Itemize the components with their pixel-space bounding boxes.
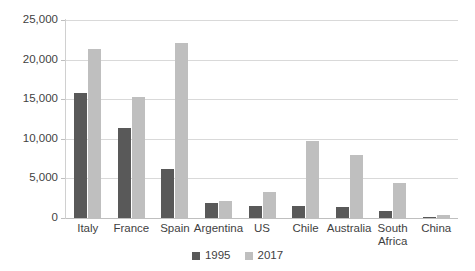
bar-argentina-1995: [205, 203, 218, 218]
y-axis-tick-mark: [61, 178, 65, 179]
gridline: [66, 218, 458, 219]
legend-swatch-icon: [192, 252, 200, 260]
bar-france-1995: [118, 128, 131, 218]
x-axis-label-china: China: [408, 222, 464, 235]
y-axis-tick-mark: [61, 20, 65, 21]
bar-italy-2017: [88, 49, 101, 218]
bar-china-2017: [437, 215, 450, 218]
legend-item-1995[interactable]: 1995: [192, 250, 231, 262]
y-axis-tick-label: 0: [0, 212, 58, 224]
legend-item-2017[interactable]: 2017: [245, 250, 284, 262]
bar-france-2017: [132, 97, 145, 218]
y-axis-tick-mark: [61, 218, 65, 219]
bar-chart: 05,00010,00015,00020,00025,000 ItalyFran…: [0, 0, 475, 271]
y-axis-tick-mark: [61, 60, 65, 61]
bar-chile-2017: [306, 141, 319, 218]
bar-south-africa-1995: [379, 211, 392, 218]
bar-chile-1995: [292, 206, 305, 218]
bar-australia-1995: [336, 207, 349, 218]
bar-us-1995: [249, 206, 262, 218]
y-axis-tick-label: 10,000: [0, 133, 58, 145]
bar-italy-1995: [74, 93, 87, 218]
y-axis-tick-mark: [61, 139, 65, 140]
bar-australia-2017: [350, 155, 363, 218]
bar-china-1995: [423, 217, 436, 218]
legend-label: 2017: [258, 250, 284, 262]
legend-swatch-icon: [245, 252, 253, 260]
plot-area: [66, 20, 458, 218]
bar-argentina-2017: [219, 201, 232, 218]
y-axis-tick-mark: [61, 99, 65, 100]
bar-us-2017: [263, 192, 276, 218]
bar-spain-1995: [161, 169, 174, 218]
y-axis-tick-label: 15,000: [0, 93, 58, 105]
bar-spain-2017: [175, 43, 188, 218]
chart-legend: 19952017: [0, 250, 475, 262]
legend-label: 1995: [205, 250, 231, 262]
y-axis-tick-label: 25,000: [0, 14, 58, 26]
y-axis-tick-label: 5,000: [0, 172, 58, 184]
y-axis-tick-label: 20,000: [0, 54, 58, 66]
bar-south-africa-2017: [393, 183, 406, 218]
